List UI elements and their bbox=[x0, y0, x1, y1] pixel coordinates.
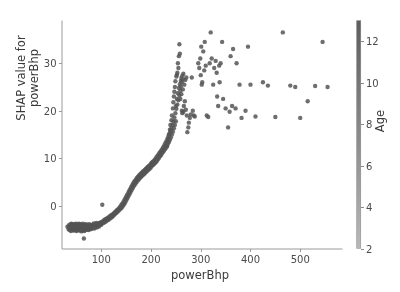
colorbar-label: Age bbox=[373, 110, 387, 132]
y-axis-label: SHAP value for powerBhp bbox=[15, 35, 41, 120]
colorbar-tick-label: 12 bbox=[366, 36, 379, 47]
colorbar-tick-label: 2 bbox=[366, 243, 372, 254]
x-tick-label: 400 bbox=[241, 254, 260, 265]
x-tick-label: 200 bbox=[141, 254, 160, 265]
y-axis-label-wrapper: SHAP value for powerBhp bbox=[6, 0, 50, 168]
y-tick-label: 0 bbox=[50, 200, 56, 211]
colorbar-tick-label: 6 bbox=[366, 160, 372, 171]
y-axis-label-line1: SHAP value for bbox=[14, 35, 28, 120]
x-axis-label: powerBhp bbox=[0, 268, 400, 282]
colorbar-tick-label: 4 bbox=[366, 202, 372, 213]
colorbar-tick-label: 8 bbox=[366, 119, 372, 130]
shap-scatter-figure: SHAP value for powerBhp powerBhp Age 100… bbox=[0, 0, 400, 292]
scatter-plot-canvas bbox=[0, 0, 400, 292]
x-tick-label: 300 bbox=[191, 254, 210, 265]
x-tick-label: 100 bbox=[92, 254, 111, 265]
colorbar-label-wrapper: Age bbox=[371, 99, 389, 143]
y-tick-label: 30 bbox=[44, 58, 57, 69]
colorbar-tick-label: 10 bbox=[366, 77, 379, 88]
y-tick-label: 20 bbox=[44, 105, 57, 116]
y-tick-label: 10 bbox=[44, 153, 57, 164]
y-axis-label-line2: powerBhp bbox=[27, 49, 41, 107]
x-tick-label: 500 bbox=[291, 254, 310, 265]
